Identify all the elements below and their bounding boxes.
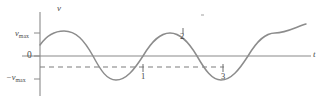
point-label-3: 3 — [221, 72, 225, 81]
tick-label-neg-v-max: −vmax — [6, 73, 26, 82]
tick-label-neg-v-max-base: −v — [6, 72, 16, 82]
scan-artifact — [201, 14, 204, 16]
point-label-1: 1 — [141, 72, 145, 81]
tick-label-neg-v-max-subscript: max — [16, 77, 26, 83]
v-axis-label: v — [57, 4, 61, 13]
velocity-time-graph: v t vmax 0 −vmax 1 2 3 — [0, 0, 323, 103]
point-label-2: 2 — [180, 32, 184, 41]
plot-canvas — [0, 0, 323, 103]
velocity-curve — [40, 24, 306, 80]
tick-label-zero: 0 — [27, 51, 32, 61]
tick-label-v-max-subscript: max — [19, 33, 29, 39]
tick-label-v-max: vmax — [15, 29, 29, 38]
t-axis-label: t — [313, 50, 316, 59]
